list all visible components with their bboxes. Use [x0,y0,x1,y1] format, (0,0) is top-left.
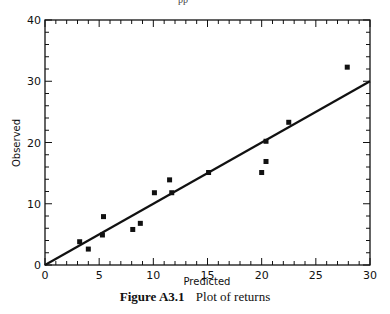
axis-ticks [45,20,370,265]
svg-text:25: 25 [309,269,323,282]
figure-caption: Figure A3.1 Plot of returns [0,289,390,305]
svg-text:30: 30 [27,75,41,88]
svg-text:20: 20 [255,269,269,282]
x-axis-label: Predicted [184,276,231,287]
plot-axes [45,20,370,265]
svg-text:0: 0 [34,259,41,272]
scatter-chart: 051015202530010203040 Predicted Observed [0,0,390,290]
svg-text:30: 30 [363,269,377,282]
svg-text:0: 0 [42,269,49,282]
svg-text:20: 20 [27,137,41,150]
figure-label: Figure A3.1 [120,289,185,304]
svg-text:5: 5 [96,269,103,282]
svg-text:40: 40 [27,14,41,27]
svg-text:10: 10 [146,269,160,282]
figure-caption-text: Plot of returns [196,289,270,304]
y-axis-label: Observed [11,119,22,167]
svg-text:10: 10 [27,198,41,211]
